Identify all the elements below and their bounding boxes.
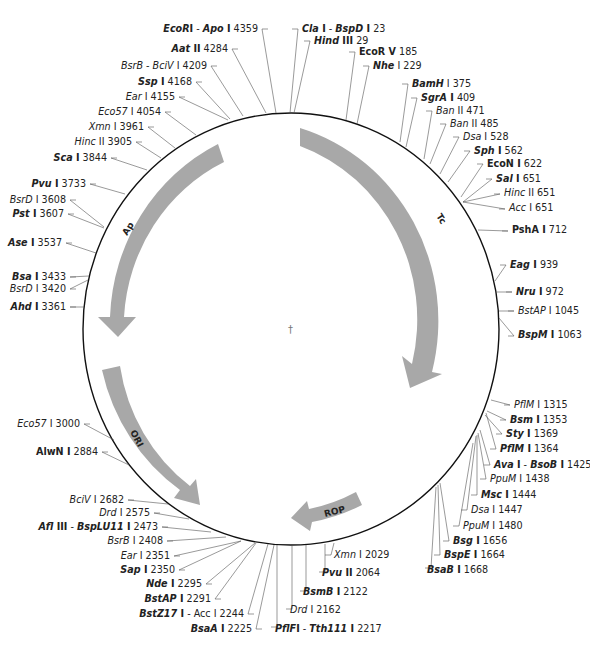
site-label-part: Ava [493, 459, 514, 470]
leader-line-msci [471, 435, 477, 495]
site-label-part: Sap [120, 564, 140, 575]
leader-line-banii-471 [424, 111, 432, 159]
site-label-hindiii[interactable]: Hind III 29 [314, 35, 368, 46]
site-label-part: Eag [510, 259, 530, 270]
site-label-clai-bspdi[interactable]: Cla I - BspD I 23 [302, 23, 385, 34]
feature-tc[interactable]: Tc [300, 128, 448, 388]
site-label-psti[interactable]: Pst I 3607 [13, 208, 64, 219]
site-label-bsmi[interactable]: Bsm I 1353 [510, 414, 567, 425]
site-label-pflmi-1364[interactable]: PflM I 1364 [500, 443, 559, 454]
site-label-bstz17i-acci[interactable]: BstZ17 I - Acc I 2244 [139, 608, 244, 619]
site-label-eari-4155[interactable]: Ear I 4155 [126, 91, 175, 102]
leader-line-dsai-1447 [461, 436, 476, 510]
leader-line-drdi-2162 [286, 545, 292, 609]
site-label-ndei[interactable]: Nde I 2295 [146, 578, 202, 589]
site-label-alwni[interactable]: AlwN I 2884 [36, 446, 98, 457]
site-label-pflmi-1315[interactable]: PflM I 1315 [514, 399, 568, 410]
site-label-banii-471[interactable]: Ban II 471 [436, 105, 485, 116]
site-label-part: II 471 [455, 105, 485, 116]
site-label-eco57i-3000[interactable]: Eco57 I 3000 [17, 418, 80, 429]
site-label-scai[interactable]: Sca I 3844 [54, 152, 107, 163]
site-label-sali[interactable]: Sal I 651 [496, 173, 541, 184]
site-label-eco57i-4054[interactable]: Eco57 I 4054 [98, 106, 161, 117]
site-label-ppumi-1480[interactable]: PpuM I 1480 [463, 520, 523, 531]
site-label-avai-bsobi[interactable]: Ava I - BsoB I 1425 [493, 459, 590, 470]
site-label-afliii-bsplu11i[interactable]: Afl III - BspLU11 I 2473 [37, 521, 158, 532]
site-label-nrui[interactable]: Nru I 972 [516, 286, 564, 297]
site-label-drdi-2162[interactable]: Drd I 2162 [290, 604, 341, 615]
leader-line-bsrb-bcivi [211, 66, 243, 116]
site-label-part: BsmB [303, 586, 333, 597]
site-label-sphi[interactable]: Sph I 562 [474, 145, 523, 156]
site-label-psha[interactable]: PshA I 712 [512, 224, 567, 235]
site-label-ppumi-1438[interactable]: PpuM I 1438 [490, 473, 550, 484]
site-label-hincii-651[interactable]: Hinc II 651 [504, 187, 555, 198]
site-label-bspmi[interactable]: BspM I 1063 [518, 329, 582, 340]
site-label-part: Eco57 [98, 106, 128, 117]
site-label-bsrdi-3608[interactable]: BsrD I 3608 [10, 194, 66, 205]
feature-ori[interactable]: ORI [102, 366, 200, 505]
site-label-ecorv[interactable]: EcoR V 185 [359, 46, 417, 57]
feature-ap[interactable]: Ap [98, 144, 224, 337]
site-label-sgrai[interactable]: SgrA I 409 [421, 92, 475, 103]
site-label-hincii-3905[interactable]: Hinc II 3905 [75, 136, 132, 147]
site-label-bspei[interactable]: BspE I 1664 [444, 549, 505, 560]
leader-line-sapi [179, 541, 241, 570]
site-label-bstapi-2291[interactable]: BstAP I 2291 [145, 593, 211, 604]
site-label-part: PflF [275, 623, 297, 634]
site-label-pvuii[interactable]: Pvu II 2064 [322, 567, 380, 578]
site-label-pflfi-tth111i[interactable]: PflFI - Tth111 I 2217 [275, 623, 382, 634]
site-label-dsai-1447[interactable]: Dsa I 1447 [471, 504, 523, 515]
site-label-part: I [514, 158, 521, 169]
leader-line-asei [66, 243, 96, 253]
site-label-bamhi[interactable]: BamH I 375 [412, 78, 471, 89]
site-label-bcivi-2682[interactable]: BciV I 2682 [70, 494, 124, 505]
site-label-ahdi[interactable]: Ahd I 3361 [9, 301, 66, 312]
site-label-ecori-apoi[interactable]: EcoRI - Apo I 4359 [163, 23, 258, 34]
site-label-nhei[interactable]: Nhe I 229 [373, 60, 422, 71]
site-label-sspi[interactable]: Ssp I 4168 [138, 76, 192, 87]
site-label-dsai[interactable]: Dsa I 528 [463, 131, 509, 142]
site-label-econi[interactable]: EcoN I 622 [487, 158, 542, 169]
site-label-styi[interactable]: Sty I 1369 [506, 428, 558, 439]
site-label-bsaai[interactable]: BsaA I 2225 [191, 623, 252, 634]
site-label-part: V [385, 46, 396, 57]
leader-line-dsai [440, 137, 459, 174]
site-label-bsrb-bcivi[interactable]: BsrB - BciV I 4209 [121, 60, 207, 71]
site-label-bsrdi-3420[interactable]: BsrD I 3420 [10, 283, 66, 294]
site-label-bsrbi-2408[interactable]: BsrB I 2408 [108, 535, 163, 546]
site-label-acci-651[interactable]: Acc I 651 [508, 202, 553, 213]
tc-arrow-icon [300, 128, 442, 388]
site-label-part: BamH [412, 78, 444, 89]
site-label-xmni-3961[interactable]: Xmn I 3961 [88, 121, 144, 132]
site-label-part: BciV [153, 60, 176, 71]
site-label-part: BspLU11 [77, 521, 124, 532]
site-label-bsai[interactable]: Bsa I 3433 [12, 271, 66, 282]
site-label-bstapi-1045[interactable]: BstAP I 1045 [518, 305, 579, 316]
site-label-banii-485[interactable]: Ban II 485 [450, 118, 499, 129]
site-label-bsabi[interactable]: BsaB I 1668 [427, 564, 488, 575]
site-label-part: Sal [496, 173, 513, 184]
site-label-sapi[interactable]: Sap I 2350 [120, 564, 175, 575]
site-label-bsgi[interactable]: Bsg I 1656 [453, 535, 507, 546]
leader-line-hindiii [294, 41, 310, 113]
site-label-eari-2351[interactable]: Ear I 2351 [121, 550, 170, 561]
site-label-asei[interactable]: Ase I 3537 [7, 237, 62, 248]
site-label-msci[interactable]: Msc I 1444 [481, 489, 536, 500]
site-label-part: 712 [546, 224, 567, 235]
site-label-part: Eco57 [17, 418, 47, 429]
site-label-part: I 2029 [356, 549, 389, 560]
site-label-part: Ase [7, 237, 28, 248]
site-label-part: 1353 [540, 414, 567, 425]
site-label-part: 3607 [37, 208, 64, 219]
site-label-part: I [514, 459, 521, 470]
site-label-aatii[interactable]: Aat II 4284 [171, 43, 228, 54]
site-label-pvui[interactable]: Pvu I 3733 [31, 178, 86, 189]
site-label-eagi[interactable]: Eag I 939 [510, 259, 558, 270]
site-label-part: I 2575 [117, 507, 150, 518]
site-label-part: I [502, 489, 509, 500]
site-label-drdi-2575[interactable]: Drd I 2575 [99, 507, 150, 518]
site-label-xmni-2029[interactable]: Xmn I 2029 [333, 549, 389, 560]
site-label-bsmbi[interactable]: BsmB I 2122 [303, 586, 368, 597]
feature-rop[interactable]: ROP [291, 492, 362, 531]
